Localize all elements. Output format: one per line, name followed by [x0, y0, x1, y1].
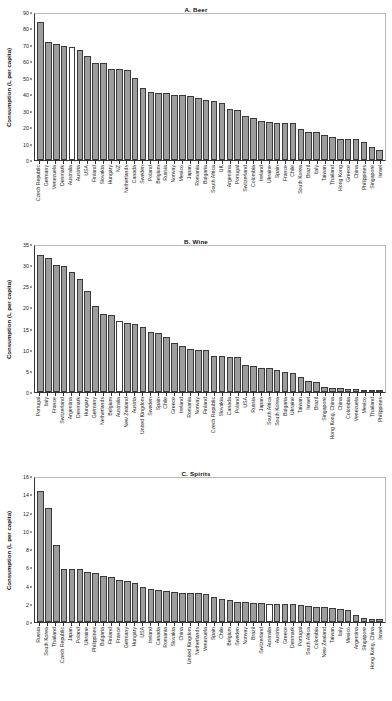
- chart-title-spirits: C. Spirits: [0, 464, 392, 477]
- bar-austria: [274, 604, 281, 622]
- x-tick-mark: [282, 623, 290, 626]
- bar-cell: [250, 478, 258, 622]
- x-tick-mark: [99, 393, 107, 396]
- x-tick-label: Taiwan: [299, 397, 304, 413]
- bar-cell: [139, 246, 147, 392]
- x-tick-label: Philippines: [92, 627, 97, 652]
- x-tick-label: Czech Republic: [211, 397, 216, 433]
- x-tick-mark: [258, 393, 266, 396]
- x-label-cell: Italy: [313, 165, 321, 166]
- bar-cell: [76, 14, 84, 160]
- bar-thailand: [369, 390, 376, 392]
- x-label-cell: South Korea: [43, 627, 51, 628]
- x-tick-label: Slovakia: [100, 165, 105, 185]
- x-label-cell: China: [178, 627, 186, 628]
- bar-netherlands: [100, 314, 107, 392]
- x-label-cell: Israel: [305, 397, 313, 398]
- x-tick-label: South Korea: [275, 397, 280, 426]
- x-label-cell: Sweden: [234, 627, 242, 628]
- x-tick-label: Israel: [378, 165, 383, 178]
- bar-cell: [60, 14, 68, 160]
- bar-cell: [37, 14, 45, 160]
- axes-box-spirits: [34, 477, 386, 623]
- x-tick-mark: [266, 393, 274, 396]
- bar-cell: [115, 246, 123, 392]
- x-label-cell: Russia: [163, 165, 171, 166]
- bar-cell: [100, 246, 108, 392]
- bar-china: [179, 593, 186, 622]
- x-label-cell: Portugal: [297, 627, 305, 628]
- bar-denmark: [290, 604, 297, 622]
- x-tick-label: Germany: [124, 627, 129, 648]
- y-tick-mark: [30, 513, 33, 514]
- y-tick-label: 90: [23, 10, 29, 16]
- bar-singapore: [321, 387, 328, 392]
- bar-cell: [194, 478, 202, 622]
- x-tick-label: USA: [84, 165, 89, 176]
- bar-united-kingdom: [140, 327, 147, 392]
- bar-poland: [234, 357, 241, 392]
- x-label-cell: Romania: [194, 165, 202, 166]
- bar-colombia: [250, 118, 257, 160]
- bar-israel: [376, 619, 383, 622]
- x-tick-label: Mexico: [362, 397, 367, 413]
- x-label-cell: Norway: [170, 165, 178, 166]
- bar-cell: [297, 246, 305, 392]
- x-tick-mark: [75, 161, 83, 164]
- x-tick-label: Norway: [196, 397, 201, 415]
- x-tick-label: Mexico: [180, 165, 185, 181]
- bar-philippines: [92, 573, 99, 622]
- x-label-cell: Israel: [377, 165, 385, 166]
- bar-spain: [274, 123, 281, 160]
- bar-finland: [92, 63, 99, 160]
- x-label-cell: Russia: [250, 397, 258, 398]
- x-tick-mark: [163, 393, 171, 396]
- bar-cell: [226, 478, 234, 622]
- x-tick-mark: [297, 623, 305, 626]
- bar-cell: [210, 246, 218, 392]
- bar-switzerland: [258, 603, 265, 622]
- bar-cell: [218, 246, 226, 392]
- bar-norway: [242, 602, 249, 622]
- x-tick-label: Israel: [307, 397, 312, 410]
- x-tick-mark: [210, 393, 218, 396]
- x-tick-label: Hungary: [84, 397, 89, 417]
- y-tick-mark: [30, 287, 33, 288]
- x-tick-mark: [178, 161, 186, 164]
- x-axis-tickmarks-spirits: [34, 623, 386, 626]
- bar-cell: [84, 246, 92, 392]
- x-tick-label: Argentina: [227, 165, 232, 187]
- bar-south-africa: [211, 101, 218, 160]
- bar-colombia: [345, 389, 352, 392]
- x-tick-mark: [234, 393, 242, 396]
- bar-cell: [92, 478, 100, 622]
- bar-singapore: [361, 618, 368, 622]
- y-tick-mark: [30, 495, 33, 496]
- y-tick-mark: [30, 604, 33, 605]
- x-tick-label: Brazil: [307, 165, 312, 178]
- plot-area-spirits: Consumption (L per capita) 0246810121416…: [0, 477, 392, 685]
- x-label-cell: Bulgaria: [99, 627, 107, 628]
- bar-cell: [108, 478, 116, 622]
- x-tick-label: New Zealand: [323, 627, 328, 658]
- x-tick-label: Hong Kong, China: [331, 397, 336, 439]
- bar-south-korea: [298, 129, 305, 160]
- x-tick-label: United Kingdom: [140, 397, 145, 434]
- x-tick-label: Sweden: [148, 397, 153, 416]
- x-tick-label: UK: [219, 165, 224, 172]
- x-label-cell: Australia: [266, 627, 274, 628]
- bar-thailand: [53, 545, 60, 622]
- x-tick-label: Czech Republic: [61, 627, 66, 663]
- bar-cell: [37, 478, 45, 622]
- bar-cell: [336, 246, 344, 392]
- x-tick-mark: [305, 393, 313, 396]
- x-tick-mark: [377, 393, 385, 396]
- bar-spain: [155, 333, 162, 392]
- x-tick-mark: [274, 623, 282, 626]
- x-label-cell: Hong Kong, China: [329, 397, 337, 398]
- x-tick-mark: [91, 623, 99, 626]
- bar-switzerland: [242, 116, 249, 160]
- x-tick-mark: [218, 623, 226, 626]
- x-label-cell: South Korea: [274, 397, 282, 398]
- bar-venezuela: [53, 44, 60, 160]
